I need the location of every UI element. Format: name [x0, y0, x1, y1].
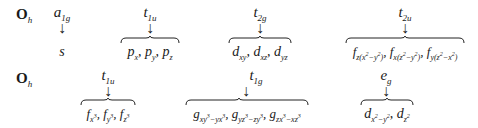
orbital-s: s — [52, 44, 72, 60]
arrow-down-icon: ↓ — [140, 20, 160, 36]
orbitals-f-t2u: fz(x2−y2), fx(z2−y2), fy(z2−x2) — [340, 44, 470, 62]
brace-icon — [120, 36, 180, 44]
arrow-down-icon: ↓ — [52, 20, 72, 36]
point-group-label: Oh — [16, 6, 32, 25]
arrow-down-icon: ↓ — [395, 20, 415, 36]
brace-icon — [360, 98, 414, 106]
orbitals-g-t1g: gxy3−yx3, gyz3−zy3, gzx3−xz3 — [182, 106, 312, 124]
arrow-down-icon: ↓ — [250, 20, 270, 36]
arrow-down-icon: ↓ — [98, 83, 118, 99]
point-group-label: Oh — [16, 70, 32, 89]
orbitals-p: px, py, pz — [110, 44, 190, 62]
brace-icon — [228, 36, 292, 44]
arrow-down-icon: ↓ — [376, 83, 396, 99]
brace-icon — [185, 98, 309, 106]
brace-icon — [345, 36, 465, 44]
arrow-down-icon: ↓ — [236, 83, 256, 99]
orbitals-d-eg: dx2−y2, dz2 — [352, 106, 422, 124]
orbitals-f-t1u: fx3, fy3, fz3 — [72, 106, 144, 124]
brace-icon — [80, 98, 136, 106]
orbitals-d-t2g: dxy, dxz, dyz — [216, 44, 304, 62]
